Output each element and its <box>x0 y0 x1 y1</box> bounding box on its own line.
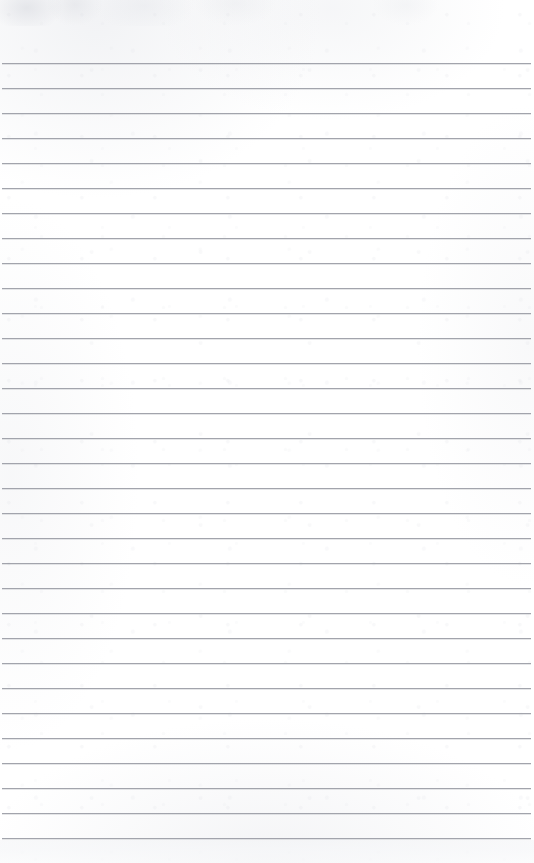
rule-line <box>2 738 531 739</box>
rule-line <box>2 263 531 264</box>
rule-line <box>2 688 531 689</box>
rule-line <box>2 588 531 589</box>
rule-line <box>2 513 531 514</box>
rule-line <box>2 63 531 64</box>
rule-line <box>2 238 531 239</box>
rule-line <box>2 613 531 614</box>
rule-line <box>2 638 531 639</box>
rule-line <box>2 288 531 289</box>
rule-line <box>2 788 531 789</box>
rule-line <box>2 338 531 339</box>
rule-line <box>2 813 531 814</box>
rule-line <box>2 538 531 539</box>
rule-line <box>2 213 531 214</box>
rule-line <box>2 763 531 764</box>
rule-lines-group <box>0 0 534 863</box>
rule-line <box>2 113 531 114</box>
ruled-paper-page <box>0 0 534 863</box>
rule-line <box>2 88 531 89</box>
rule-line <box>2 488 531 489</box>
rule-line <box>2 663 531 664</box>
rule-line <box>2 713 531 714</box>
rule-line <box>2 463 531 464</box>
rule-line <box>2 188 531 189</box>
rule-line <box>2 838 531 839</box>
rule-line <box>2 163 531 164</box>
rule-line <box>2 138 531 139</box>
rule-line <box>2 388 531 389</box>
rule-line <box>2 563 531 564</box>
rule-line <box>2 313 531 314</box>
rule-line <box>2 363 531 364</box>
rule-line <box>2 413 531 414</box>
rule-line <box>2 438 531 439</box>
